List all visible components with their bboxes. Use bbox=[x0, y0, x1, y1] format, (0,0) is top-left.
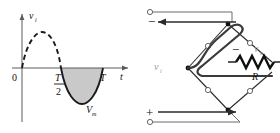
terminal-sign-plus: + bbox=[146, 105, 153, 120]
waveform-panel: v i t 0 T 2 T V m bbox=[0, 0, 140, 133]
diode-icon-top-right bbox=[247, 40, 252, 45]
svg-text:v: v bbox=[29, 10, 34, 21]
origin-label: 0 bbox=[12, 72, 17, 83]
x-axis-label: t bbox=[120, 71, 123, 82]
output-voltage-label: v o bbox=[254, 43, 263, 56]
y-axis-arrowhead bbox=[20, 14, 25, 20]
svg-text:i: i bbox=[35, 17, 37, 23]
resistor-symbol bbox=[236, 56, 274, 68]
period-tick-label: T bbox=[100, 72, 107, 83]
resistor-label: R bbox=[251, 71, 258, 82]
svg-text:m: m bbox=[92, 111, 97, 117]
diode-icon-bottom-right bbox=[247, 88, 252, 93]
peak-voltage-label: V m bbox=[86, 104, 97, 117]
diode-icon-bottom-left bbox=[205, 87, 210, 92]
svg-text:v: v bbox=[154, 61, 159, 72]
output-polarity-minus: − bbox=[232, 42, 239, 57]
svg-text:o: o bbox=[260, 50, 263, 56]
svg-text:v: v bbox=[254, 43, 259, 54]
source-voltage-label: v i bbox=[154, 61, 162, 74]
svg-text:i: i bbox=[160, 68, 162, 74]
current-arrow-top-head bbox=[158, 18, 166, 25]
terminal-sign-minus: − bbox=[148, 14, 155, 29]
y-axis-label: v i bbox=[29, 10, 37, 23]
negative-lobe-shading bbox=[61, 68, 103, 104]
figure-root: v i t 0 T 2 T V m bbox=[0, 0, 280, 133]
svg-text:T: T bbox=[55, 72, 62, 83]
svg-text:2: 2 bbox=[56, 86, 61, 97]
circuit-panel: − + v i − v o R bbox=[140, 0, 280, 133]
x-axis-arrowhead bbox=[122, 66, 128, 71]
positive-half-cycle-curve bbox=[22, 32, 61, 68]
input-terminal-bottom bbox=[147, 119, 152, 124]
